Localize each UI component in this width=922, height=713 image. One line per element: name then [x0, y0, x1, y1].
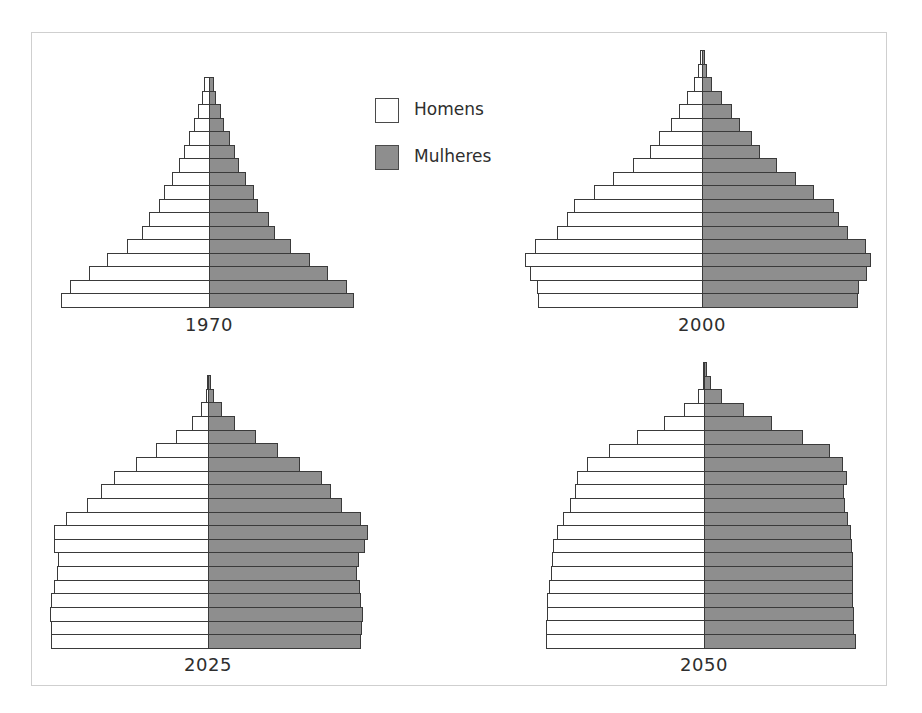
bar-female [702, 239, 866, 254]
bar-female [702, 64, 707, 78]
bar-male [551, 566, 705, 581]
bar-female [208, 525, 368, 540]
bar-female [704, 389, 722, 404]
bar-female [704, 362, 707, 377]
year-label-2025: 2025 [158, 654, 258, 675]
bar-female [704, 430, 803, 445]
legend-swatch-female [375, 145, 399, 170]
bar-female [702, 131, 752, 146]
bar-female [702, 50, 705, 65]
bar-female [208, 443, 278, 458]
bar-female [209, 199, 258, 213]
bar-female [209, 172, 246, 186]
bar-female [704, 620, 854, 635]
bar-male [567, 212, 703, 227]
bar-male [659, 131, 703, 146]
bar-male [633, 158, 703, 173]
bar-male [51, 634, 209, 649]
bar-male [687, 91, 703, 105]
bar-male [184, 145, 210, 159]
bar-male [664, 416, 705, 431]
bar-female [702, 104, 732, 119]
bar-female [208, 471, 322, 485]
bar-female [704, 403, 744, 417]
bar-female [208, 375, 211, 390]
legend-swatch-male [375, 98, 399, 123]
bar-female [208, 389, 214, 403]
bar-female [702, 280, 859, 294]
bar-female [209, 212, 269, 227]
bar-female [702, 226, 848, 240]
bar-male [570, 498, 705, 513]
bar-female [209, 239, 291, 254]
bar-female [209, 131, 230, 146]
bar-male [194, 118, 210, 132]
bar-female [704, 444, 830, 458]
bar-female [208, 457, 300, 472]
bar-male [51, 621, 209, 635]
bar-male [127, 239, 210, 254]
bar-female [704, 471, 847, 485]
bar-female [209, 91, 216, 105]
bar-female [208, 634, 361, 649]
bar-female [209, 293, 354, 308]
bar-male [149, 212, 210, 227]
bar-female [209, 145, 235, 159]
bar-female [208, 539, 365, 553]
bar-male [546, 620, 705, 635]
bar-female [704, 416, 772, 431]
bar-male [549, 580, 705, 594]
bar-female [209, 280, 347, 294]
bar-female [208, 552, 359, 567]
bar-male [54, 539, 209, 553]
bar-female [702, 266, 867, 281]
bar-female [704, 539, 852, 553]
bar-female [702, 91, 722, 105]
bar-male [176, 430, 209, 444]
bar-male [179, 158, 210, 173]
bar-female [209, 266, 328, 281]
bar-female [702, 145, 760, 159]
bar-male [136, 457, 209, 472]
bar-male [538, 293, 703, 308]
bar-male [563, 512, 705, 526]
bar-female [208, 416, 235, 431]
bar-female [704, 593, 853, 608]
bar-male [574, 199, 703, 213]
bar-male [557, 525, 705, 540]
bar-female [209, 118, 224, 132]
bar-female [704, 512, 848, 526]
bar-female [209, 185, 254, 200]
bar-male [54, 580, 209, 594]
bar-male [587, 457, 705, 472]
bar-female [208, 566, 357, 581]
bar-male [671, 118, 703, 132]
bar-male [50, 607, 209, 622]
bar-female [209, 226, 275, 240]
bar-male [101, 484, 209, 499]
bar-female [704, 525, 851, 540]
bar-female [702, 185, 814, 200]
bar-female [704, 580, 853, 594]
bar-female [208, 430, 256, 444]
bar-female [704, 457, 843, 472]
bar-female [209, 77, 214, 92]
bar-male [87, 498, 209, 513]
bar-male [525, 253, 703, 267]
bar-female [702, 118, 740, 132]
bar-female [208, 607, 363, 622]
bar-male [156, 443, 209, 458]
bar-female [704, 552, 853, 567]
bar-male [594, 185, 703, 200]
bar-male [553, 539, 705, 553]
bar-male [679, 104, 703, 119]
bar-female [208, 593, 361, 608]
bar-female [704, 484, 844, 499]
bar-female [208, 580, 360, 594]
bar-male [61, 293, 210, 308]
bar-male [537, 280, 703, 294]
bar-male [54, 525, 209, 540]
bar-male [547, 607, 705, 621]
bar-female [209, 158, 239, 173]
bar-female [702, 172, 796, 186]
